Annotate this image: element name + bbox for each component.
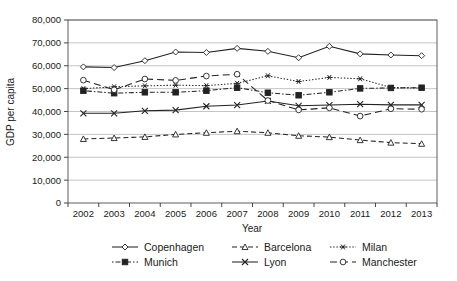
marker-circle [81, 77, 87, 83]
marker-square [296, 92, 302, 98]
marker-square [419, 85, 425, 91]
legend-label: Manchester [362, 256, 417, 268]
marker-circle [327, 105, 333, 111]
marker-circle [296, 107, 302, 113]
x-tick-label: 2013 [411, 208, 432, 219]
x-axis-title: Year [242, 223, 263, 234]
y-tick-label: 60,000 [32, 60, 61, 71]
x-tick-label: 2011 [350, 208, 370, 219]
marker-square [357, 86, 363, 92]
marker-circle [111, 87, 117, 93]
marker-square [204, 88, 210, 94]
marker-circle [340, 259, 346, 265]
marker-square [327, 90, 333, 96]
marker-circle [204, 73, 210, 79]
legend-label: Barcelona [264, 241, 311, 253]
marker-square [81, 88, 87, 94]
y-tick-label: 30,000 [32, 129, 61, 140]
y-tick-label: 80,000 [32, 14, 61, 25]
x-tick-label: 2007 [227, 208, 248, 219]
marker-circle [234, 71, 240, 77]
y-tick-label: 10,000 [32, 175, 61, 186]
x-tick-label: 2005 [165, 208, 186, 219]
marker-circle [142, 76, 148, 82]
marker-circle [173, 78, 179, 84]
legend-label: Milan [362, 241, 387, 253]
marker-circle [388, 106, 394, 112]
x-tick-label: 2002 [73, 208, 94, 219]
legend-label: Copenhagen [144, 241, 204, 253]
y-tick-label: 20,000 [32, 152, 61, 163]
x-tick-label: 2003 [104, 208, 125, 219]
y-tick-label: 40,000 [32, 106, 61, 117]
x-tick-label: 2012 [380, 208, 401, 219]
x-tick-label: 2006 [196, 208, 217, 219]
marker-square [388, 85, 394, 91]
x-tick-label: 2010 [319, 208, 340, 219]
legend-label: Munich [144, 256, 178, 268]
marker-square [265, 90, 271, 96]
y-tick-label: 0 [56, 197, 61, 208]
gdp-per-capita-chart: 010,00020,00030,00040,00050,00060,00070,… [0, 0, 457, 281]
marker-circle [419, 106, 425, 112]
chart-background [0, 0, 457, 281]
chart-canvas: 010,00020,00030,00040,00050,00060,00070,… [0, 0, 457, 281]
marker-square [142, 90, 148, 96]
marker-circle [265, 98, 271, 104]
marker-square [122, 259, 128, 265]
marker-square [173, 90, 179, 96]
y-axis-title: GDP per capita [5, 77, 16, 146]
legend-label: Lyon [264, 256, 287, 268]
y-tick-label: 50,000 [32, 83, 61, 94]
x-tick-label: 2009 [288, 208, 309, 219]
y-tick-label: 70,000 [32, 37, 61, 48]
marker-square [234, 85, 240, 91]
x-tick-label: 2008 [257, 208, 278, 219]
marker-circle [357, 113, 363, 119]
x-tick-label: 2004 [134, 208, 155, 219]
